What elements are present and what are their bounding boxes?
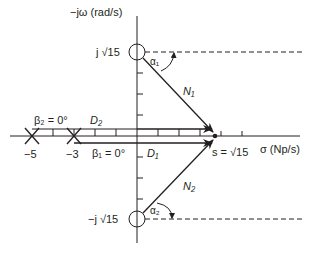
d2-vector xyxy=(32,129,212,136)
beta1-label: β₁ = 0° xyxy=(92,147,125,159)
pole-minus3-label: −3 xyxy=(66,148,79,160)
evaluation-point-label: s = √15 xyxy=(212,146,248,158)
beta2-label: β₂ = 0° xyxy=(34,114,68,126)
d2-label: D₂ xyxy=(90,114,102,126)
real-ticks xyxy=(221,131,242,136)
d1-label: D₁ xyxy=(147,147,158,159)
zero-lower-label: −j √15 xyxy=(88,213,118,225)
n2-label: N₂ xyxy=(183,180,195,192)
pole-minus5-label: −5 xyxy=(24,148,37,160)
horizontal-axis-label: σ (Np/s) xyxy=(260,143,300,155)
alpha1-label: α₁ xyxy=(150,56,159,68)
alpha1-arc xyxy=(161,53,174,71)
n1-label: N₁ xyxy=(183,85,194,97)
n1-vector xyxy=(143,58,213,132)
alpha2-label: α₂ xyxy=(150,205,160,217)
zero-upper-label: j √15 xyxy=(96,46,120,58)
evaluation-point xyxy=(213,134,218,139)
vertical-axis-label: −jω (rad/s) xyxy=(70,6,122,18)
